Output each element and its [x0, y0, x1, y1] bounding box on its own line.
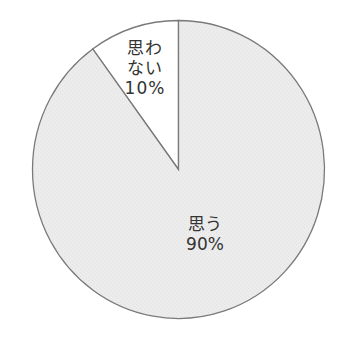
slice-label-agree: 思う 90% — [180, 214, 230, 254]
pie-chart — [0, 0, 353, 342]
slice-label-disagree: 思わ ない 10% — [116, 38, 174, 98]
slice-agree — [33, 21, 325, 319]
pie-slices — [33, 21, 325, 319]
